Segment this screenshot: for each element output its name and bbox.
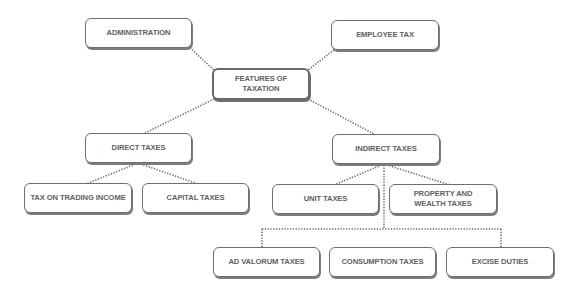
node-label: TAX ON TRADING INCOME xyxy=(30,193,125,203)
connector-direct-trading-income xyxy=(86,163,138,184)
node-excise-duties: EXCISE DUTIES xyxy=(446,247,554,277)
connector-indirect-unit xyxy=(334,164,384,185)
connector-features-direct-taxes xyxy=(143,99,214,134)
connector-features-administration xyxy=(190,48,214,70)
node-label: EMPLOYEE TAX xyxy=(356,30,414,40)
node-label: FEATURES OF TAXATION xyxy=(217,74,305,94)
node-label: INDIRECT TAXES xyxy=(355,144,416,154)
node-features-of-taxation: FEATURES OF TAXATION xyxy=(212,68,310,100)
node-tax-on-trading-income: TAX ON TRADING INCOME xyxy=(24,183,132,213)
connector-indirect-property xyxy=(384,164,450,185)
node-consumption-taxes: CONSUMPTION TAXES xyxy=(329,247,436,277)
node-label: EXCISE DUTIES xyxy=(472,257,529,267)
node-ad-valorum-taxes: AD VALORUM TAXES xyxy=(213,247,320,277)
node-direct-taxes: DIRECT TAXES xyxy=(85,133,192,163)
node-label: CAPITAL TAXES xyxy=(167,193,225,203)
node-unit-taxes: UNIT TAXES xyxy=(272,184,379,214)
node-employee-tax: EMPLOYEE TAX xyxy=(331,20,439,50)
node-indirect-taxes: INDIRECT TAXES xyxy=(332,134,440,164)
node-label: AD VALORUM TAXES xyxy=(228,257,304,267)
node-label: ADMINISTRATION xyxy=(107,28,171,38)
taxation-diagram: ADMINISTRATION EMPLOYEE TAX FEATURES OF … xyxy=(0,0,578,289)
node-label: CONSUMPTION TAXES xyxy=(341,257,423,267)
node-administration: ADMINISTRATION xyxy=(85,18,192,48)
node-label: UNIT TAXES xyxy=(304,194,348,204)
node-capital-taxes: CAPITAL TAXES xyxy=(142,183,249,213)
node-label: PROPERTY AND WEALTH TAXES xyxy=(408,189,478,209)
connector-features-employee-tax xyxy=(308,50,334,70)
connector-direct-capital xyxy=(138,163,198,184)
node-property-and-wealth-taxes: PROPERTY AND WEALTH TAXES xyxy=(389,184,497,214)
connector-features-indirect-taxes xyxy=(308,99,376,135)
node-label: DIRECT TAXES xyxy=(112,143,166,153)
